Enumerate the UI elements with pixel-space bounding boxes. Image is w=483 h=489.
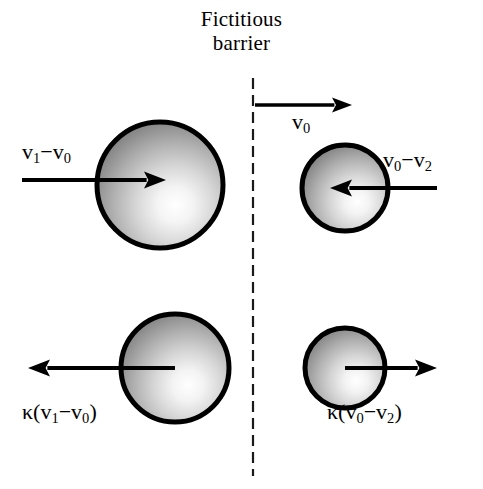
sphere-top-left-large xyxy=(97,122,223,248)
label-outgoing-left-v0: v0 xyxy=(71,399,89,424)
label-incoming-right-minus: − xyxy=(401,147,413,172)
label-outgoing-right-close-paren: ) xyxy=(394,399,401,424)
label-outgoing-right-velocity: κ(v0−v2) xyxy=(327,400,402,426)
figure-title: Fictitious barrier xyxy=(0,8,483,55)
collision-diagram-figure: Fictitious barrier v1−v0 v0 v0−v2 κ(v1−v… xyxy=(0,0,483,489)
arrow-barrier-v0-head xyxy=(332,98,352,113)
label-outgoing-right-v0: v0 xyxy=(345,399,363,424)
label-incoming-right-velocity: v0−v2 xyxy=(383,148,432,174)
label-incoming-right-v0: v0 xyxy=(383,147,401,172)
label-barrier-v0: v0 xyxy=(292,109,310,134)
label-outgoing-left-v1: v1 xyxy=(40,399,58,424)
label-outgoing-right-minus: − xyxy=(364,399,376,424)
label-incoming-left-v0: v0 xyxy=(53,139,71,164)
label-outgoing-left-kappa: κ( xyxy=(22,399,40,424)
label-outgoing-left-close-paren: ) xyxy=(89,399,96,424)
arrow-layer xyxy=(22,98,437,377)
arrow-outgoing-left-head xyxy=(28,360,50,377)
figure-title-line-2: barrier xyxy=(0,32,483,56)
label-barrier-velocity: v0 xyxy=(292,110,310,136)
figure-title-line-1: Fictitious xyxy=(0,8,483,32)
label-incoming-left-velocity: v1−v0 xyxy=(22,140,71,166)
label-outgoing-right-v2: v2 xyxy=(376,399,394,424)
arrow-outgoing-right-head xyxy=(415,360,437,377)
label-outgoing-left-velocity: κ(v1−v0) xyxy=(22,400,97,426)
label-outgoing-left-minus: − xyxy=(59,399,71,424)
label-outgoing-right-kappa: κ( xyxy=(327,399,345,424)
label-incoming-right-v2: v2 xyxy=(414,147,432,172)
label-incoming-left-minus: − xyxy=(40,139,52,164)
label-incoming-left-v1: v1 xyxy=(22,139,40,164)
